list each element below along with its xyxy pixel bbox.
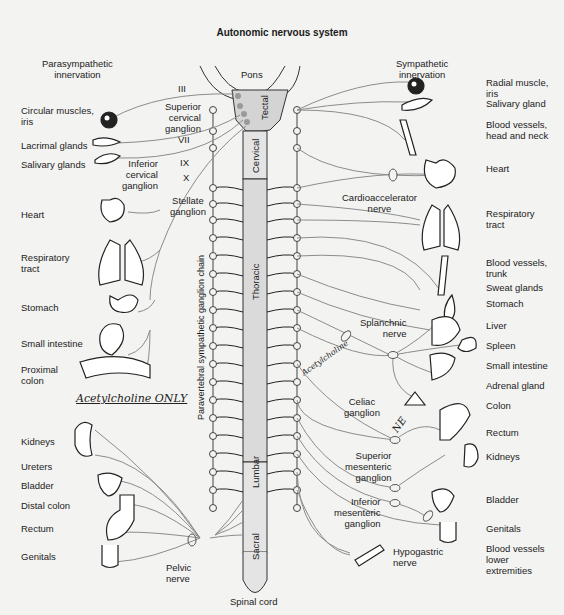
right-organ-bladder: Bladder [486, 494, 519, 505]
left-organ-respiratory: Respiratory tract [21, 252, 70, 274]
spinal-cord-label: Spinal cord [230, 596, 278, 607]
cranial-nerve-vii: VII [178, 134, 190, 145]
cervical-label: Cervical [250, 139, 261, 173]
right-organ-sweat: Sweat glands [486, 282, 543, 293]
ganglion-chain-label: Paravertebral sympathetic ganglion chain [196, 255, 206, 420]
left-organ-bladder: Bladder [21, 480, 54, 491]
right-organ-liver: Liver [486, 320, 507, 331]
right-organ-vessels-trunk: Blood vessels, trunk [486, 257, 547, 279]
sympathetic-heading: Sympathetic innervation [396, 58, 448, 80]
left-organ-proximal-colon: Proximal colon [21, 364, 58, 386]
diagram-title: Autonomic nervous system [0, 27, 564, 38]
left-organ-heart: Heart [21, 209, 44, 220]
pelvic-nerve-label: Pelvic nerve [166, 562, 191, 584]
right-organ-rectum: Rectum [486, 427, 519, 438]
diagram-drawing [0, 0, 564, 615]
stellate-ganglion-label: Stellate ganglion [170, 195, 206, 217]
right-organ-iris: Radial muscle, iris [486, 77, 548, 99]
right-organ-respiratory: Respiratory tract [486, 208, 535, 230]
left-organ-iris: Circular muscles, iris [21, 105, 94, 127]
left-organ-kidneys: Kidneys [21, 436, 55, 447]
right-organ-vessels-head: Blood vessels, head and neck [486, 119, 548, 141]
pons-label: Pons [241, 69, 263, 80]
left-organ-lacrimal: Lacrimal glands [21, 140, 88, 151]
inferior-cervical-ganglion-label: Inferior cervical ganglion [122, 158, 158, 191]
right-organ-adrenal: Adrenal gland [486, 380, 545, 391]
right-organ-salivary: Salivary gland [486, 98, 546, 109]
left-organ-small-intestine: Small intestine [21, 338, 83, 349]
left-organ-salivary: Salivary glands [21, 159, 85, 170]
right-organ-stomach: Stomach [486, 298, 524, 309]
celiac-ganglion-label: Celiac ganglion [344, 396, 380, 418]
left-organ-ureters: Ureters [21, 461, 52, 472]
superior-cervical-ganglion-label: Superior cervical ganglion [165, 101, 201, 134]
cranial-nerve-x: X [183, 172, 189, 183]
sacral-label: Sacral [250, 533, 261, 560]
right-organ-kidneys: Kidneys [486, 451, 520, 462]
parasympathetic-heading: Parasympathetic innervation [42, 58, 113, 80]
left-organ-distal-colon: Distal colon [21, 500, 70, 511]
right-organ-small-intestine: Small intestine [486, 360, 548, 371]
autonomic-nervous-system-diagram: Autonomic nervous system Parasympathetic… [0, 0, 564, 615]
cranial-nerve-iii: III [178, 83, 186, 94]
cardioaccelerator-nerve-label: Cardioaccelerator nerve [342, 192, 417, 214]
inferior-mesenteric-ganglion-label: Inferior mesenteric ganglion [334, 496, 380, 529]
tectal-label: Tectal [259, 95, 270, 120]
right-organ-genitals: Genitals [486, 523, 521, 534]
superior-mesenteric-ganglion-label: Superior mesenteric ganglion [345, 450, 391, 483]
splanchnic-nerve-label: Splanchnic nerve [360, 317, 406, 339]
lumbar-label: Lumbar [250, 456, 261, 488]
thoracic-label: Thoracic [250, 264, 261, 300]
hypogastric-nerve-label: Hypogastric nerve [393, 546, 443, 568]
right-organ-heart: Heart [486, 163, 509, 174]
right-organ-colon: Colon [486, 400, 511, 411]
left-organ-stomach: Stomach [21, 302, 59, 313]
cranial-nerve-ix: IX [180, 157, 189, 168]
left-organ-rectum: Rectum [21, 523, 54, 534]
handwritten-acetylcholine-only: Acetylcholine ONLY [76, 392, 187, 405]
right-organ-spleen: Spleen [486, 340, 516, 351]
right-organ-vessels-lower: Blood vessels lower extremities [486, 543, 545, 576]
left-organ-genitals: Genitals [21, 551, 56, 562]
